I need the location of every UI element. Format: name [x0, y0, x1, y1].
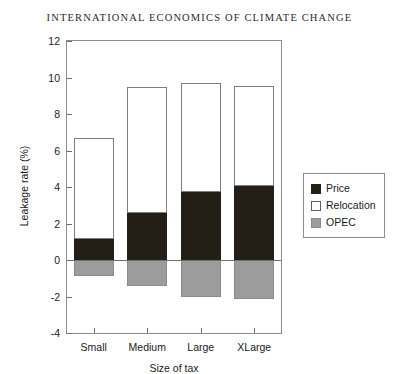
y-tick-label: 4	[54, 181, 60, 193]
x-axis-title: Size of tax	[66, 362, 282, 374]
y-axis-title: Leakage rate (%)	[18, 116, 30, 256]
y-tick-mark: 6	[67, 151, 72, 152]
bar-segment-price	[181, 192, 221, 260]
chart-legend: PriceRelocationOPEC	[303, 173, 385, 238]
bar-segment-price	[74, 239, 114, 260]
legend-label: Relocation	[326, 200, 376, 211]
legend-label: OPEC	[326, 217, 356, 228]
legend-label: Price	[326, 183, 350, 194]
y-tick-mark: -2	[67, 297, 72, 298]
y-tick-label: -2	[51, 291, 60, 303]
legend-swatch-icon	[311, 184, 321, 194]
bar-group	[74, 41, 114, 333]
bar-segment-opec	[234, 260, 274, 299]
legend-item: Price	[311, 180, 376, 197]
y-tick-mark: 8	[67, 114, 72, 115]
bar-segment-relocation	[127, 87, 167, 213]
legend-swatch-icon	[311, 218, 321, 228]
x-tick-label: XLarge	[237, 341, 271, 353]
y-tick-label: 6	[54, 145, 60, 157]
bar-segment-price	[127, 213, 167, 260]
bar-segment-opec	[127, 260, 167, 286]
bar-group	[234, 41, 274, 333]
legend-item: OPEC	[311, 214, 376, 231]
y-tick-mark: 10	[67, 78, 72, 79]
chart-figure: Leakage rate (%) -4-2024681012 SmallMedi…	[0, 28, 399, 374]
bar-group	[127, 41, 167, 333]
x-tick-label: Medium	[129, 341, 166, 353]
bar-segment-opec	[74, 260, 114, 276]
legend-swatch-icon	[311, 201, 321, 211]
bar-segment-opec	[181, 260, 221, 297]
y-tick-mark: 2	[67, 224, 72, 225]
bar-segment-relocation	[234, 86, 274, 186]
y-tick-label: 0	[54, 254, 60, 266]
y-tick-label: 10	[48, 72, 60, 84]
y-tick-mark: 4	[67, 187, 72, 188]
plot-area: -4-2024681012 SmallMediumLargeXLarge	[66, 40, 282, 334]
x-tick-label: Large	[187, 341, 214, 353]
y-tick-label: 8	[54, 108, 60, 120]
x-tick-label: Small	[81, 341, 107, 353]
plot-inner: -4-2024681012 SmallMediumLargeXLarge	[67, 41, 281, 333]
bar-group	[181, 41, 221, 333]
running-head: INTERNATIONAL ECONOMICS OF CLIMATE CHANG…	[0, 12, 399, 23]
bar-segment-relocation	[181, 83, 221, 193]
y-tick-label: 2	[54, 218, 60, 230]
y-tick-mark: 12	[67, 41, 72, 42]
y-tick-mark: -4	[67, 333, 72, 334]
figure-page: INTERNATIONAL ECONOMICS OF CLIMATE CHANG…	[0, 0, 399, 374]
zero-baseline	[67, 260, 281, 261]
y-tick-label: 12	[48, 35, 60, 47]
bar-segment-price	[234, 186, 274, 260]
legend-item: Relocation	[311, 197, 376, 214]
bar-segment-relocation	[74, 138, 114, 239]
y-tick-label: -4	[51, 327, 60, 339]
